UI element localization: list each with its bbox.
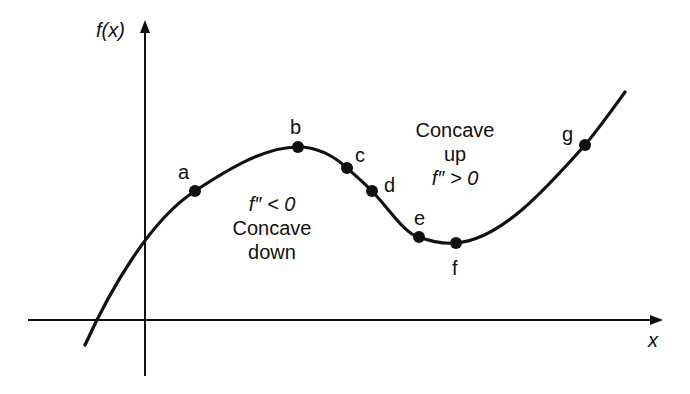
concave-up-annotation: Concave up f″ > 0	[416, 118, 495, 190]
second-derivative-positive: f″ > 0	[416, 166, 495, 190]
function-curve	[85, 92, 625, 345]
concave-down-line1: Concave	[233, 216, 312, 240]
x-axis-label: x	[648, 330, 658, 350]
concave-down-annotation: f″ < 0 Concave down	[233, 192, 312, 264]
concave-down-line2: down	[233, 240, 312, 264]
point-g-marker	[579, 139, 591, 151]
point-b-label: b	[290, 117, 301, 137]
concave-up-line1: Concave	[416, 118, 495, 142]
point-e-marker	[413, 231, 425, 243]
point-a-marker	[189, 185, 201, 197]
point-a-label: a	[178, 162, 189, 182]
point-c-label: c	[355, 145, 365, 165]
second-derivative-negative: f″ < 0	[233, 192, 312, 216]
point-f-marker	[450, 237, 462, 249]
point-c-marker	[341, 162, 353, 174]
point-e-label: e	[414, 208, 425, 228]
y-axis-label: f(x)	[96, 20, 125, 40]
concave-up-line2: up	[416, 142, 495, 166]
point-d-marker	[366, 185, 378, 197]
point-g-label: g	[562, 124, 573, 144]
y-axis-arrow-icon	[140, 20, 150, 33]
x-axis-arrow-icon	[650, 315, 663, 325]
concavity-diagram	[0, 0, 690, 394]
point-f-label: f	[452, 258, 458, 278]
point-b-marker	[292, 141, 304, 153]
point-d-label: d	[384, 175, 395, 195]
